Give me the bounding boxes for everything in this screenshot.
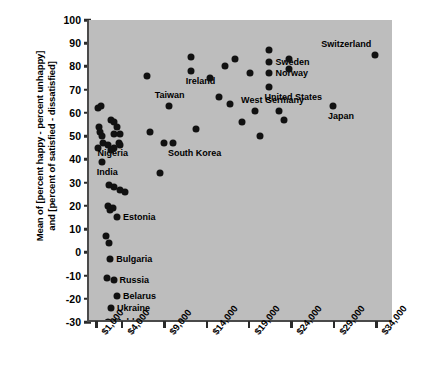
point-label: India [97, 167, 118, 177]
data-point [266, 47, 273, 54]
data-point-sweden [266, 58, 273, 65]
data-point [246, 70, 253, 77]
y-tick-label: 60 [49, 107, 81, 119]
y-tick-label: -30 [49, 316, 81, 328]
x-tick-mark [206, 321, 209, 328]
y-tick-label: 20 [49, 200, 81, 212]
data-point [215, 93, 222, 100]
data-point [106, 240, 113, 247]
x-tick-mark [95, 321, 98, 328]
data-point [98, 133, 105, 140]
y-tick-label: 30 [49, 177, 81, 189]
point-label: South Korea [168, 148, 222, 158]
data-point-switzerland [372, 51, 379, 58]
y-tick-label: 40 [49, 153, 81, 165]
data-point-norway [266, 70, 273, 77]
data-point [275, 107, 282, 114]
data-point-india [98, 158, 105, 165]
data-point [97, 102, 104, 109]
point-label: Taiwan [155, 90, 185, 100]
y-tick-label: 10 [49, 223, 81, 235]
point-label: Switzerland [321, 39, 371, 49]
data-point-belarus [113, 293, 120, 300]
data-point [147, 128, 154, 135]
data-point [226, 100, 233, 107]
data-point-taiwan [165, 102, 172, 109]
data-point [109, 205, 116, 212]
data-point [192, 126, 199, 133]
x-tick-mark [375, 321, 378, 328]
point-label: United States [264, 92, 322, 102]
point-label: Sweden [275, 57, 309, 67]
data-point [257, 133, 264, 140]
data-point [161, 140, 168, 147]
data-point-bulgaria [107, 256, 114, 263]
y-tick-label: -20 [49, 293, 81, 305]
data-point-united-states [266, 84, 273, 91]
data-point-estonia [113, 214, 120, 221]
data-point [157, 170, 164, 177]
y-tick-label: 0 [49, 246, 81, 258]
y-tick-label: 50 [49, 130, 81, 142]
data-point [104, 142, 111, 149]
data-point [280, 116, 287, 123]
data-point [285, 65, 292, 72]
y-axis-title-line1: Mean of [percent happy - percent unhappy… [34, 0, 46, 296]
data-point [231, 56, 238, 63]
point-label: Japan [328, 111, 354, 121]
data-point-west-germany [252, 107, 259, 114]
data-point-russia [110, 277, 117, 284]
data-point [102, 233, 109, 240]
data-point [122, 188, 129, 195]
data-point [221, 63, 228, 70]
y-tick-label: 70 [49, 84, 81, 96]
y-tick-label: 80 [49, 60, 81, 72]
x-tick-mark [121, 321, 124, 328]
data-point [238, 119, 245, 126]
point-label: Estonia [123, 212, 156, 222]
x-tick-mark [163, 321, 166, 328]
data-point [207, 75, 214, 82]
point-label: Russia [120, 275, 150, 285]
data-point [187, 54, 194, 61]
y-tick-label: -10 [49, 270, 81, 282]
data-point [113, 123, 120, 130]
x-tick-mark [333, 321, 336, 328]
data-point-japan [330, 102, 337, 109]
point-label: Bulgaria [116, 254, 152, 264]
plot-area: NigeriaIndiaEstoniaBulgariaRussiaBelarus… [87, 20, 392, 322]
scatter-chart: Mean of [percent happy - percent unhappy… [0, 0, 423, 374]
data-point [285, 56, 292, 63]
y-tick-label: 90 [49, 37, 81, 49]
data-point [144, 72, 151, 79]
x-tick-mark [248, 321, 251, 328]
data-point [117, 130, 124, 137]
point-label: Belarus [123, 291, 156, 301]
x-tick-mark [290, 321, 293, 328]
data-point-south-korea [169, 140, 176, 147]
y-tick-label: 100 [49, 14, 81, 26]
data-point-ireland [187, 68, 194, 75]
